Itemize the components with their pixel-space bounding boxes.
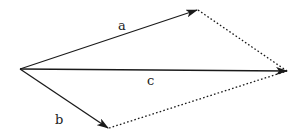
- label-a: a: [118, 18, 126, 33]
- vector-c-arrow: [20, 69, 287, 71]
- vector-a-arrow: [20, 10, 197, 69]
- dotted-edge-a-to-c: [198, 10, 287, 71]
- vector-b-arrow: [20, 69, 108, 128]
- vector-diagram: a c b: [0, 0, 304, 139]
- dotted-edge-b-to-c: [109, 71, 287, 128]
- label-b: b: [55, 112, 63, 127]
- label-c: c: [147, 73, 154, 88]
